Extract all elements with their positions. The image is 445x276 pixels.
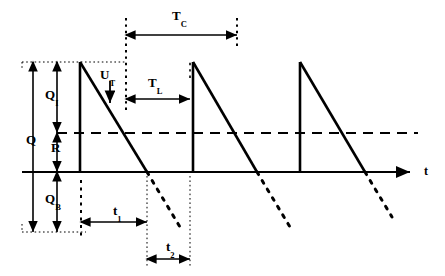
label-threshold-voltage-base: U bbox=[100, 67, 109, 82]
diagram-canvas bbox=[0, 0, 445, 276]
label-residual-charge-base: R bbox=[51, 140, 60, 155]
label-threshold-voltage-sub: T bbox=[109, 78, 115, 88]
label-time-axis: t bbox=[424, 165, 428, 177]
label-t1-interval-sub: 1 bbox=[117, 214, 121, 224]
waveform-diagram: Q QI R QB TC TL t1 t2 UT t bbox=[0, 0, 445, 276]
label-residual-charge: R bbox=[51, 141, 60, 157]
label-load-time-sub: L bbox=[157, 86, 163, 96]
label-t2-interval-sub: 2 bbox=[170, 250, 174, 260]
label-background-charge-base: Q bbox=[45, 191, 55, 206]
label-information-charge: QI bbox=[45, 88, 58, 104]
label-total-charge-base: Q bbox=[26, 132, 36, 147]
label-cycle-time: TC bbox=[172, 9, 187, 25]
label-load-time-base: T bbox=[148, 75, 157, 90]
label-cycle-time-base: T bbox=[172, 8, 181, 23]
label-information-charge-sub: I bbox=[55, 98, 58, 108]
sawtooth-waveform-solid bbox=[80, 62, 365, 172]
label-t1-interval: t1 bbox=[113, 204, 122, 220]
label-cycle-time-sub: C bbox=[181, 19, 187, 29]
label-load-time: TL bbox=[148, 76, 162, 92]
label-background-charge-sub: B bbox=[55, 202, 61, 212]
label-threshold-voltage: UT bbox=[100, 68, 115, 84]
label-total-charge: Q bbox=[26, 133, 36, 149]
sawtooth-waveform-dotted-extension bbox=[147, 172, 392, 232]
label-t2-interval: t2 bbox=[166, 240, 175, 256]
label-background-charge: QB bbox=[45, 192, 61, 208]
label-information-charge-base: Q bbox=[45, 87, 55, 102]
